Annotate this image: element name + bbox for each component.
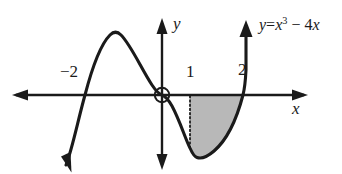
- y-axis-label: y: [173, 14, 181, 34]
- x-tick-label-1: 1: [186, 62, 195, 82]
- equation-x-trailing: x: [312, 16, 319, 33]
- cubic-graph-figure: −2 1 2 y x y=x3 − 4x: [0, 0, 342, 174]
- y-axis-bottom-arrowhead: [157, 154, 168, 170]
- curve-left-arrowhead: [61, 152, 72, 173]
- x-axis-label: x: [292, 99, 300, 119]
- y-axis-top-arrowhead: [157, 18, 168, 34]
- curve-right-arrowhead: [240, 20, 253, 37]
- x-tick-label-negative-2: −2: [60, 62, 78, 82]
- x-axis-left-arrowhead: [12, 90, 28, 101]
- curve-equation-label: y=x3 − 4x: [259, 16, 320, 34]
- x-tick-label-2: 2: [238, 60, 247, 80]
- equation-equals: =: [266, 16, 275, 33]
